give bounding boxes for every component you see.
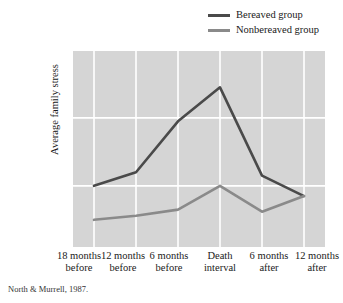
source-citation: North & Murrell, 1987. [8,284,88,294]
plot-area [73,50,325,247]
x-axis: 18 months before 12 months before 6 mont… [73,250,325,280]
legend-label-nonbereaved: Nonbereaved group [236,24,319,36]
y-axis-title: Average family stress [49,40,60,180]
legend-item-nonbereaved: Nonbereaved group [208,23,343,37]
x-tick-12-months-after: 12 months after [288,250,343,274]
x-tick-6-months-before-line1: 6 months [140,250,198,262]
data-series-layer [73,50,325,247]
legend-item-bereaved: Bereaved group [208,8,343,22]
series-line-nonbereaved-group [94,186,304,220]
x-tick-12-months-after-line2: after [288,262,343,274]
x-tick-6-months-before: 6 months before [140,250,198,274]
figure-container: Bereaved group Nonbereaved group Average… [0,0,343,303]
series-line-bereaved-group [94,87,304,196]
x-tick-12-months-after-line1: 12 months [288,250,343,262]
chart-legend: Bereaved group Nonbereaved group [208,8,343,38]
x-tick-6-months-before-line2: before [140,262,198,274]
legend-swatch-nonbereaved [208,29,230,32]
legend-swatch-bereaved [208,14,230,17]
legend-label-bereaved: Bereaved group [236,9,303,21]
